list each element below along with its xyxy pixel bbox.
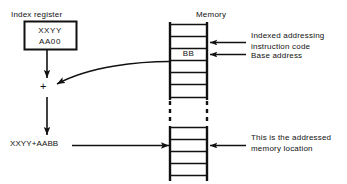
- addressed-location-annotation-line2: memory location: [251, 144, 313, 154]
- index-register-value-high: XXYY: [27, 25, 73, 36]
- index-register-value-low: AA00: [27, 36, 73, 47]
- effective-address-label: XXYY+AABB: [10, 139, 58, 149]
- base-address-annotation: Base address: [251, 51, 302, 61]
- indexed-addressing-diagram: Index register XXYY AA00 + XXYY+AABB Mem…: [0, 0, 347, 184]
- base-address-to-adder-curve: [57, 62, 170, 85]
- index-register-caption: Index register: [11, 10, 62, 20]
- adder-plus-symbol: +: [40, 81, 46, 92]
- index-register-contents: XXYY AA00: [27, 25, 73, 47]
- memory-cell-base-address-value: BB: [172, 49, 205, 59]
- instruction-code-annotation-line1: Indexed addressing: [251, 31, 324, 41]
- addressed-location-annotation-line1: This is the addressed: [251, 133, 331, 143]
- memory-caption: Memory: [196, 10, 226, 20]
